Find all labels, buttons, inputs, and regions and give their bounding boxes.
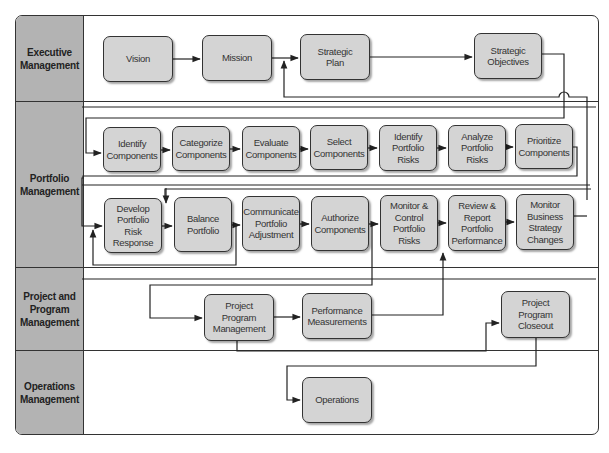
node-project-program-closeout: Project Program Closeout (501, 291, 570, 338)
node-evaluate-components: Evaluate Components (242, 126, 300, 171)
node-vision: Vision (103, 36, 173, 82)
node-identify-portfolio-risks: Identify Portfolio Risks (379, 125, 437, 171)
node-operations: Operations (302, 377, 372, 423)
node-prioritize-components: Prioritize Components (515, 124, 573, 169)
node-strategic-plan: Strategic Plan (300, 34, 370, 80)
node-develop-portfolio-risk-response: Develop Portfolio Risk Response (104, 198, 162, 253)
node-project-program-management: Project Program Management (204, 294, 274, 341)
node-strategic-objectives: Strategic Objectives (474, 33, 542, 79)
node-monitor-business-strategy-changes: Monitor Business Strategy Changes (516, 194, 574, 250)
node-authorize-components: Authorize Components (311, 196, 369, 251)
node-review-report-portfolio-performance: Review & Report Portfolio Performance (448, 195, 506, 251)
node-select-components: Select Components (310, 125, 368, 170)
node-identify-components: Identify Components (103, 127, 161, 172)
node-performance-measurements: Performance Measurements (302, 293, 372, 339)
node-balance-portfolio: Balance Portfolio (174, 197, 232, 252)
node-monitor-control-portfolio-risks: Monitor & Control Portfolio Risks (380, 195, 438, 251)
node-mission: Mission (202, 35, 272, 81)
node-communicate-portfolio-adjustment: Communicate Portfolio Adjustment (242, 196, 300, 251)
node-analyze-portfolio-risks: Analyze Portfolio Risks (448, 125, 506, 171)
node-categorize-components: Categorize Components (172, 126, 230, 171)
